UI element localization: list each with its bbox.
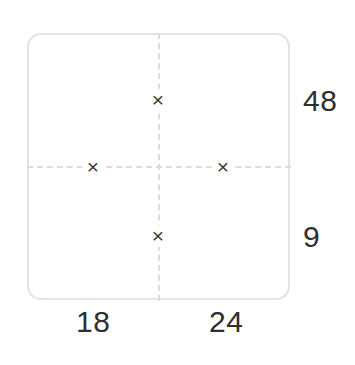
multiply-icon-top: × xyxy=(147,89,169,111)
multiply-icon-right: × xyxy=(212,156,234,178)
label-bottom-right: 24 xyxy=(209,305,243,339)
label-right-bottom: 9 xyxy=(303,220,320,254)
label-right-top: 48 xyxy=(303,84,337,118)
label-bottom-left: 18 xyxy=(76,305,110,339)
horizontal-divider-line xyxy=(27,166,291,168)
multiply-icon-bottom: × xyxy=(147,225,169,247)
puzzle-grid-container: × × × × 48 9 18 24 xyxy=(0,0,355,365)
multiply-icon-left: × xyxy=(82,156,104,178)
